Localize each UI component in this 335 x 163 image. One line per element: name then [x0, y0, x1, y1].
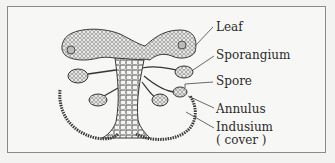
- vein-right: [178, 41, 186, 49]
- label-spore: Spore: [216, 75, 252, 88]
- label-leaf: Leaf: [216, 21, 243, 34]
- label-indusium-cover: ( cover ): [216, 134, 267, 147]
- indusium-left: [60, 90, 118, 139]
- receptacle: [102, 58, 150, 138]
- vein-left: [67, 46, 75, 54]
- fern-sorus-diagram: [0, 0, 335, 163]
- label-annulus: Annulus: [216, 103, 266, 116]
- label-sporangium: Sporangium: [216, 49, 290, 62]
- leaf-tissue: [62, 29, 196, 62]
